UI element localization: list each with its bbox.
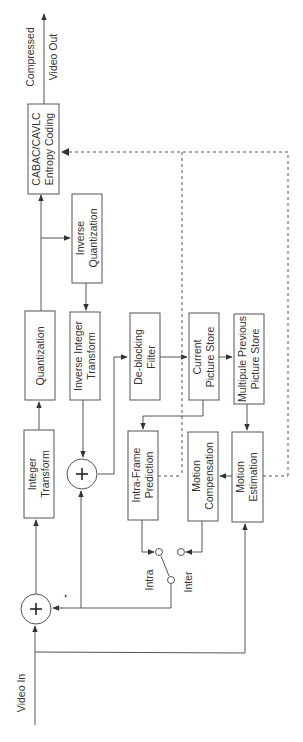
inv-int-label-1: Inverse Integer — [72, 320, 84, 391]
switch-inter-label: Inter — [182, 571, 194, 593]
intra-inter-switch: Intra Inter — [143, 549, 194, 593]
reconstruction-adder — [67, 459, 97, 489]
prev-store-label-1: Multipule Previous — [236, 316, 248, 402]
block-quantization: Quantization — [25, 311, 55, 400]
motion-comp-to-switch-line — [186, 521, 202, 552]
switch-intra-label: Intra — [143, 569, 155, 590]
block-cabac: CABAC/CAVLC Entropy Coding — [28, 104, 59, 194]
current-store-to-intra-line — [143, 400, 203, 429]
inv-quant-label-2: Quantization — [87, 208, 99, 267]
prev-store-label-2: Picture Store — [249, 328, 261, 389]
switch-intra-contact — [156, 549, 163, 556]
block-motion-compensation: Motion Compensation — [188, 432, 218, 521]
input-label: Video In — [15, 674, 27, 712]
output-label-2: Video Out — [47, 34, 59, 81]
motion-comp-label-2: Compensation — [203, 442, 215, 510]
block-integer-transform: Integer Transform — [24, 430, 54, 518]
block-deblocking-filter: De-blocking Filter — [130, 313, 160, 400]
quant-label: Quantization — [34, 326, 46, 385]
control-arrowhead — [61, 148, 69, 156]
intra-label-1: Intra-Frame — [130, 447, 142, 502]
intra-to-switch-line — [142, 520, 154, 552]
block-inverse-quantization: Inverse Quantization — [72, 194, 102, 283]
deblock-label-2: Filter — [145, 345, 157, 369]
motion-comp-label-1: Motion — [190, 460, 202, 492]
block-inverse-integer-transform: Inverse Integer Transform — [70, 312, 100, 400]
motion-est-label-2: Estimation — [247, 452, 259, 501]
minus-sign: - — [58, 594, 70, 598]
h264-encoder-diagram: CABAC/CAVLC Entropy Coding Inverse Quant… — [0, 0, 303, 742]
block-intra-frame-prediction: Intra-Frame Prediction — [128, 431, 158, 520]
switch-arm — [161, 556, 169, 576]
switch-inter-contact — [178, 549, 185, 556]
adder-to-deblock-line — [98, 357, 127, 474]
video-to-motion-estimation-line — [35, 524, 245, 653]
inv-int-label-2: Transform — [85, 332, 97, 380]
deblock-label-1: De-blocking — [132, 329, 144, 385]
cabac-label-1: CABAC/CAVLC — [30, 112, 42, 186]
input-subtractor — [21, 594, 51, 624]
block-multiple-previous-picture-store: Multipule Previous Picture Store — [234, 314, 264, 404]
current-store-label-2: Picture Store — [204, 326, 216, 387]
diagram-canvas: CABAC/CAVLC Entropy Coding Inverse Quant… — [0, 0, 303, 742]
inv-quant-label-1: Inverse — [74, 221, 86, 256]
output-label-1: Compressed — [24, 27, 36, 87]
block-motion-estimation: Motion Estimation — [232, 432, 263, 522]
intra-label-2: Prediction — [143, 452, 155, 499]
switch-pivot — [168, 577, 175, 584]
int-transform-label-2: Transform — [39, 450, 51, 498]
motion-est-label-1: Motion — [234, 461, 246, 493]
cabac-label-2: Entropy Coding — [43, 113, 55, 186]
int-transform-label-1: Integer — [26, 457, 38, 490]
block-current-picture-store: Current Picture Store — [189, 313, 219, 400]
current-store-label-1: Current — [191, 339, 203, 374]
